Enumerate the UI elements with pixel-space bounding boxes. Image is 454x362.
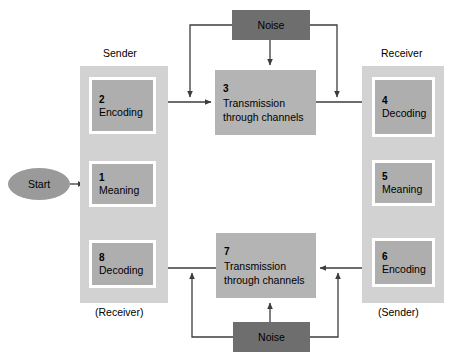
step-caption: Encoding: [382, 263, 432, 276]
step-transmission-3[interactable]: 3 Transmission through channels: [215, 70, 316, 135]
step-meaning-5[interactable]: 5 Meaning: [372, 160, 435, 206]
step-caption: Meaning: [382, 183, 432, 196]
receiver-top-label: Receiver: [381, 47, 422, 59]
step-decoding-4[interactable]: 4 Decoding: [372, 77, 435, 137]
step-number: 2: [99, 93, 153, 106]
step-encoding-6[interactable]: 6 Encoding: [372, 238, 435, 287]
step-encoding-2[interactable]: 2 Encoding: [89, 77, 156, 134]
start-node[interactable]: Start: [8, 168, 70, 200]
step-number: 8: [99, 251, 153, 264]
step-caption: Decoding: [382, 107, 432, 120]
receiver-bottom-label: (Receiver): [95, 306, 143, 318]
step-number: 1: [99, 171, 153, 184]
step-caption: Meaning: [99, 184, 153, 197]
step-number: 5: [382, 170, 432, 183]
noise-box-bottom[interactable]: Noise: [233, 322, 310, 352]
start-label: Start: [28, 178, 50, 190]
step-number: 3: [223, 82, 316, 96]
noise-box-top[interactable]: Noise: [232, 10, 310, 40]
sender-bottom-label: (Sender): [378, 306, 419, 318]
step-caption: Transmission through channels: [223, 96, 316, 124]
step-number: 6: [382, 250, 432, 263]
step-caption: Encoding: [99, 106, 153, 119]
noise-label: Noise: [258, 19, 285, 31]
step-transmission-7[interactable]: 7 Transmission through channels: [216, 233, 316, 298]
step-meaning-1[interactable]: 1 Meaning: [89, 161, 156, 207]
step-caption: Decoding: [99, 264, 153, 277]
step-number: 7: [224, 245, 316, 259]
step-caption: Transmission through channels: [224, 259, 316, 287]
communication-process-diagram: Sender Receiver (Receiver) (Sender) Star…: [0, 0, 454, 362]
sender-top-label: Sender: [103, 47, 137, 59]
noise-label: Noise: [258, 331, 285, 343]
step-number: 4: [382, 94, 432, 107]
step-decoding-8[interactable]: 8 Decoding: [89, 240, 156, 288]
